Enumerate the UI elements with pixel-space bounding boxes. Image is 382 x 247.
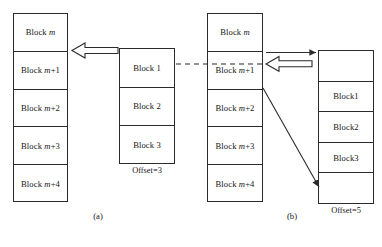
memory-cell-a-2: Block m+2 — [14, 90, 67, 128]
buffer-column-a: Block 1 Block 2 Block 3 — [119, 48, 175, 164]
buffer-cell-a-1: Block 2 — [120, 88, 174, 127]
buffer-cell-b-3: Block3 — [319, 143, 373, 174]
memory-cell-a-2-label: Block m+2 — [21, 103, 60, 113]
memory-cell-b-2-label: Block m+2 — [216, 103, 255, 113]
offset-label-b: Offset=5 — [318, 206, 374, 215]
buffer-cell-b-1: Block1 — [319, 82, 373, 113]
buffer-cell-b-4 — [319, 173, 373, 204]
buffer-cell-a-2: Block 3 — [120, 126, 174, 165]
memory-cell-a-3-label: Block m+3 — [21, 141, 60, 151]
memory-cell-a-1: Block m+1 — [14, 52, 67, 90]
memory-blocks-column-b: Block m Block m+1 Block m+2 Block m+3 Bl… — [207, 13, 263, 202]
memory-cell-b-0: Block m — [208, 14, 262, 52]
buffer-column-b: Block1 Block2 Block3 — [318, 50, 374, 204]
memory-cell-b-4: Block m+4 — [208, 165, 262, 203]
memory-cell-b-1-label: Block m+1 — [216, 65, 255, 75]
buffer-cell-b-0 — [319, 51, 373, 82]
hollow-arrow-left-b — [266, 57, 312, 72]
memory-cell-a-0: Block m — [14, 14, 67, 52]
memory-cell-b-1: Block m+1 — [208, 52, 262, 90]
buffer-cell-a-0: Block 1 — [120, 49, 174, 88]
diagonal-arrow-b — [263, 88, 319, 187]
memory-cell-a-1-label: Block m+1 — [21, 65, 60, 75]
memory-cell-a-3: Block m+3 — [14, 127, 67, 165]
memory-cell-b-0-label: Block m — [220, 27, 250, 37]
offset-label-a: Offset=3 — [119, 166, 175, 175]
hollow-arrow-left-a — [72, 43, 118, 58]
memory-cell-a-4: Block m+4 — [14, 165, 67, 203]
memory-blocks-column-a: Block m Block m+1 Block m+2 Block m+3 Bl… — [13, 13, 68, 202]
memory-cell-b-3-label: Block m+3 — [216, 141, 255, 151]
memory-cell-a-0-label: Block m — [26, 27, 56, 37]
memory-cell-b-4-label: Block m+4 — [216, 179, 255, 189]
figure-root: Block m Block m+1 Block m+2 Block m+3 Bl… — [0, 0, 382, 247]
memory-cell-a-4-label: Block m+4 — [21, 179, 60, 189]
buffer-cell-b-2: Block2 — [319, 112, 373, 143]
panel-caption-b: (b) — [272, 211, 312, 221]
memory-cell-b-3: Block m+3 — [208, 127, 262, 165]
panel-caption-a: (a) — [78, 211, 118, 221]
memory-cell-b-2: Block m+2 — [208, 90, 262, 128]
